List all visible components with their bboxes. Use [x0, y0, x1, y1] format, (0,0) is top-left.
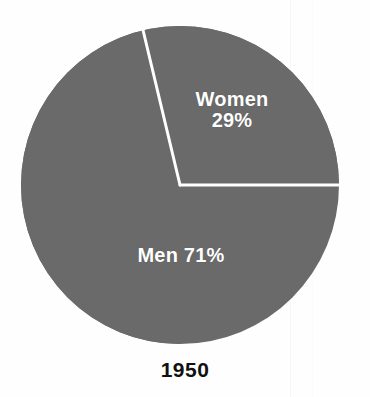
- slice-label-men: Men 71%: [111, 245, 251, 266]
- slice-label-women-name: Women: [161, 89, 303, 110]
- pie-svg: [0, 0, 370, 360]
- slice-label-women: Women 29%: [161, 89, 303, 131]
- slice-label-men-text: Men 71%: [111, 245, 251, 266]
- chart-caption-year: 1950: [0, 358, 370, 382]
- slice-label-women-percent: 29%: [161, 110, 303, 131]
- pie-chart-area: Women 29% Men 71%: [0, 0, 370, 360]
- pie-chart-figure: Women 29% Men 71% 1950: [0, 0, 370, 397]
